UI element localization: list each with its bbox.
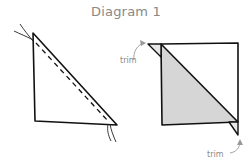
right-square-figure: trim trim — [120, 40, 243, 159]
trim-arrow-top-head — [140, 40, 146, 46]
dashed-seam-line — [36, 43, 108, 121]
left-triangle-figure — [14, 24, 117, 142]
diagram-canvas: trim trim — [0, 0, 252, 165]
triangle-outline — [33, 33, 117, 125]
dog-ear-top — [148, 44, 161, 57]
trim-arrow-bottom-head — [237, 139, 243, 145]
trim-label-bottom: trim — [207, 150, 224, 159]
trim-label-top: trim — [120, 56, 137, 65]
dog-ear-bottom — [229, 122, 238, 135]
thread-bottom-2 — [110, 124, 116, 142]
thread-top-2 — [20, 24, 34, 42]
thread-top-1 — [14, 31, 33, 40]
